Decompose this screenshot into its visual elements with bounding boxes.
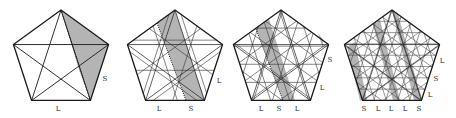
length-label: L	[295, 105, 300, 113]
subdivision-line	[356, 22, 375, 81]
pentagon-panel-4: LSLSLLLS	[344, 10, 444, 113]
length-label: L	[428, 91, 433, 99]
diagram-canvas: SLLLSSLLSLLSLSLLLS	[0, 0, 456, 118]
length-label: S	[103, 75, 108, 83]
length-label: S	[277, 105, 282, 113]
length-label: L	[56, 105, 61, 113]
length-label: L	[320, 84, 325, 92]
pentagon-subdivision-figure: SLLLSSLLSLLSLSLLLS	[0, 0, 456, 118]
length-label: L	[376, 105, 381, 113]
length-label: L	[157, 105, 162, 113]
length-label: S	[362, 105, 367, 113]
length-label: L	[389, 105, 394, 113]
shaded-strip	[61, 10, 109, 101]
pentagon-panel-3: SLLSL	[233, 10, 332, 113]
diagonal-line	[32, 10, 61, 100]
shaded-triangle	[318, 33, 323, 49]
length-label: L	[259, 105, 264, 113]
length-label: L	[217, 77, 222, 85]
length-label: S	[417, 105, 422, 113]
length-label: S	[328, 56, 333, 64]
length-label: S	[434, 75, 439, 83]
subdivision-line	[143, 14, 169, 93]
length-label: L	[440, 57, 445, 65]
length-label: L	[403, 105, 408, 113]
shaded-strip	[256, 19, 295, 101]
length-label: S	[189, 105, 194, 113]
pentagon-panel-1: SL	[13, 10, 108, 113]
pentagon-panel-2: LLS	[127, 10, 222, 113]
shaded-strip	[347, 42, 367, 101]
